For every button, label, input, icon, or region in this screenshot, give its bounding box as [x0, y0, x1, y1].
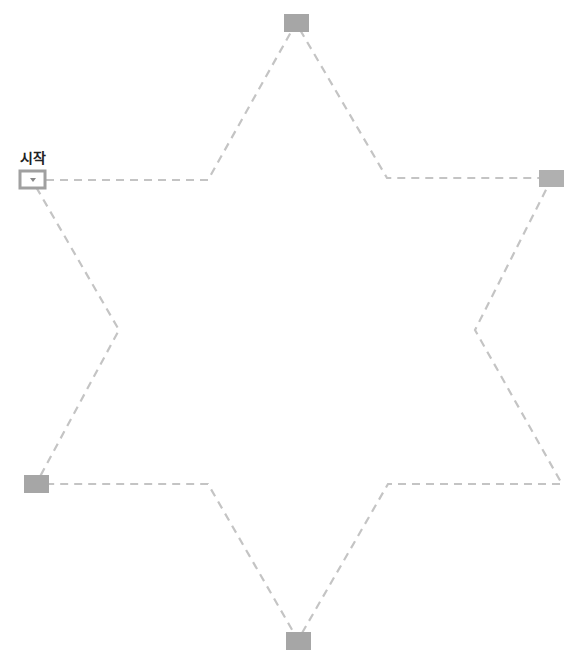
node-right[interactable]: [539, 170, 564, 187]
star-path-diagram: [0, 0, 581, 669]
node-top[interactable]: [284, 14, 309, 32]
node-bottom[interactable]: [286, 632, 311, 650]
node-left[interactable]: [24, 475, 49, 493]
dashed-star-path: [32, 23, 562, 640]
